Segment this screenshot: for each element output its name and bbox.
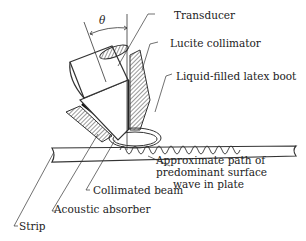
label-collimated-beam: Collimated beam — [93, 184, 183, 196]
label-transducer: Transducer — [174, 9, 235, 21]
label-lucite-collimator: Lucite collimator — [170, 37, 261, 49]
label-angle-theta: θ — [99, 14, 105, 26]
label-surface-wave-line2: predominant surface — [156, 166, 261, 178]
label-acoustic-absorber: Acoustic absorber — [54, 203, 150, 215]
label-strip: Strip — [19, 220, 46, 232]
label-surface-wave-line1: Approximate path of — [156, 154, 261, 166]
acoustic-absorber-right — [128, 50, 150, 130]
label-latex-boot: Liquid-filled latex boot — [176, 70, 296, 82]
